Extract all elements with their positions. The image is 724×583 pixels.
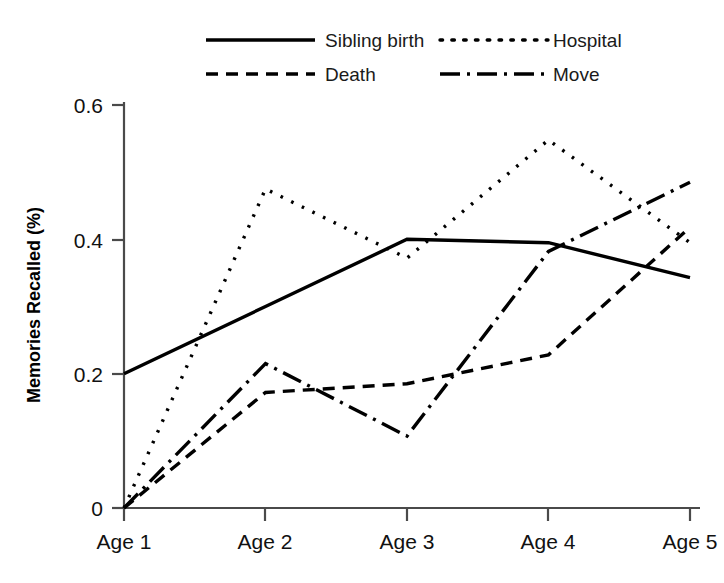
y-tick-label-0.4: 0.4 — [74, 229, 104, 252]
x-tick-label-age-1: Age 1 — [97, 530, 152, 553]
legend-label-sibling-birth: Sibling birth — [325, 30, 424, 51]
line-chart: Sibling birth Hospital Death Move — [0, 0, 724, 583]
y-tick-label-0.2: 0.2 — [74, 363, 103, 386]
x-tick-label-age-2: Age 2 — [238, 530, 293, 553]
legend-label-hospital: Hospital — [553, 30, 622, 51]
chart-svg: Sibling birth Hospital Death Move — [0, 0, 724, 583]
x-tick-label-age-4: Age 4 — [521, 530, 576, 553]
x-tick-label-age-5: Age 5 — [663, 530, 718, 553]
y-axis-title: Memories Recalled (%) — [24, 207, 44, 403]
y-tick-label-0: 0 — [91, 497, 103, 520]
chart-background — [0, 0, 724, 583]
legend-label-move: Move — [553, 64, 599, 85]
y-tick-label-0.6: 0.6 — [74, 94, 103, 117]
legend-label-death: Death — [325, 64, 376, 85]
x-tick-label-age-3: Age 3 — [380, 530, 435, 553]
